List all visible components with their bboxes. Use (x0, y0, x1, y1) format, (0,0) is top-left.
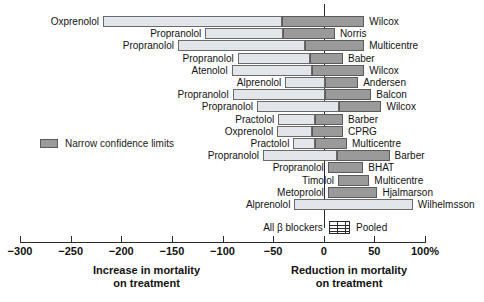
row-drug-label: Timolol (302, 175, 334, 186)
narrow-confidence-bar (328, 162, 363, 173)
wide-confidence-bar (263, 150, 337, 161)
row-study-label: Multicentre (374, 175, 423, 186)
wide-confidence-bar (233, 89, 325, 100)
pooled-drug-label: All β blockers (263, 222, 323, 233)
axis-tick (223, 236, 224, 243)
row-drug-label: Atenolol (191, 65, 227, 76)
row-study-label: BHAT (368, 162, 394, 173)
row-study-label: Balcon (376, 89, 407, 100)
pooled-row: All β blockers Pooled (0, 221, 484, 234)
row-drug-label: Oxprenolol (51, 16, 99, 27)
row-drug-label: Practolol (235, 114, 274, 125)
axis-tick (324, 236, 325, 243)
row-study-label: Barber (348, 114, 378, 125)
forest-row: PropranololWilcox (0, 101, 484, 112)
axis-caption-right-line2: on treatment (269, 277, 429, 290)
wide-confidence-bar (178, 40, 305, 51)
row-drug-label: Propranolol (150, 28, 201, 39)
axis-tick-label: −100 (210, 245, 235, 257)
forest-row: OxprenololCPRG (0, 126, 484, 137)
row-study-label: Multicentre (352, 138, 401, 149)
wide-confidence-bar (293, 138, 314, 149)
forest-row: TimololMulticentre (0, 175, 484, 186)
wide-confidence-bar (232, 65, 312, 76)
row-drug-label: Propranolol (177, 89, 228, 100)
axis-caption-left: Increase in mortality on treatment (67, 264, 227, 290)
narrow-confidence-bar (338, 175, 369, 186)
wide-confidence-bar (205, 28, 283, 39)
axis-tick (374, 236, 375, 243)
row-drug-label: Alprenolol (246, 199, 290, 210)
row-drug-label: Propranolol (202, 101, 253, 112)
row-study-label: Multicentre (369, 40, 418, 51)
narrow-confidence-bar (305, 40, 365, 51)
row-study-label: Andersen (363, 77, 406, 88)
narrow-confidence-bar (283, 28, 335, 39)
row-drug-label: Alprenolol (237, 77, 281, 88)
forest-row: MetoprololHjalmarson (0, 187, 484, 198)
forest-row: AlprenololAndersen (0, 77, 484, 88)
axis-tick-label: −200 (109, 245, 134, 257)
narrow-confidence-bar (315, 138, 347, 149)
row-drug-label: Practolol (250, 138, 289, 149)
row-study-label: Barber (395, 150, 425, 161)
wide-confidence-bar (103, 16, 282, 27)
narrow-confidence-bar (337, 150, 390, 161)
forest-row: PropranololMulticentre (0, 40, 484, 51)
forest-row: PropranololBarber (0, 150, 484, 161)
wide-confidence-bar (257, 101, 339, 112)
pooled-estimate-box (329, 221, 350, 234)
row-drug-label: Propranolol (273, 162, 324, 173)
row-study-label: Norris (340, 28, 367, 39)
beta-blocker-mortality-forest-chart: Narrow confidence limits OxprenololWilco… (0, 0, 484, 302)
axis-tick (425, 236, 426, 243)
row-study-label: Hjalmarson (382, 187, 433, 198)
plot-area: Narrow confidence limits OxprenololWilco… (0, 0, 484, 232)
axis-tick-label: 100% (411, 245, 439, 257)
narrow-confidence-bar (282, 16, 364, 27)
wide-confidence-bar (285, 77, 324, 88)
narrow-confidence-bar (325, 77, 358, 88)
row-drug-label: Metoprolol (277, 187, 324, 198)
row-study-label: Wilcox (369, 65, 398, 76)
axis-tick-label: −50 (264, 245, 283, 257)
wide-confidence-bar (238, 53, 310, 64)
narrow-confidence-bar (325, 89, 372, 100)
forest-row: OxprenololWilcox (0, 16, 484, 27)
forest-row: PropranololBHAT (0, 162, 484, 173)
axis-tick (172, 236, 173, 243)
x-axis: −300−250−200−150−100−50050100% Increase … (0, 236, 484, 302)
axis-tick-label: −250 (58, 245, 83, 257)
axis-caption-right: Reduction in mortality on treatment (269, 264, 429, 290)
narrow-confidence-bar (328, 187, 378, 198)
row-drug-label: Propranolol (183, 53, 234, 64)
forest-row: PractololBarber (0, 114, 484, 125)
forest-row: AlprenololWilhelmsson (0, 199, 484, 210)
forest-row: PropranololBaber (0, 53, 484, 64)
row-study-label: Wilcox (369, 16, 398, 27)
axis-tick-label: 0 (321, 245, 327, 257)
forest-row: PractololMulticentre (0, 138, 484, 149)
axis-tick-label: 50 (368, 245, 380, 257)
axis-tick-label: −150 (159, 245, 184, 257)
narrow-confidence-bar (310, 53, 343, 64)
axis-caption-left-line2: on treatment (67, 277, 227, 290)
row-study-label: Wilhelmsson (418, 199, 475, 210)
axis-tick (71, 236, 72, 243)
axis-caption-left-line1: Increase in mortality (67, 264, 227, 277)
forest-row: PropranololBalcon (0, 89, 484, 100)
narrow-confidence-bar (312, 126, 343, 137)
row-drug-label: Propranolol (123, 40, 174, 51)
wide-confidence-bar (278, 114, 314, 125)
axis-caption-right-line1: Reduction in mortality (269, 264, 429, 277)
axis-tick (273, 236, 274, 243)
pooled-study-label: Pooled (356, 222, 387, 233)
forest-row: PropranololNorris (0, 28, 484, 39)
wide-confidence-bar (277, 126, 311, 137)
row-study-label: CPRG (348, 126, 377, 137)
narrow-confidence-bar (339, 101, 382, 112)
row-study-label: Baber (348, 53, 375, 64)
row-study-label: Wilcox (386, 101, 415, 112)
wide-confidence-bar (294, 199, 412, 210)
axis-tick (20, 236, 21, 243)
